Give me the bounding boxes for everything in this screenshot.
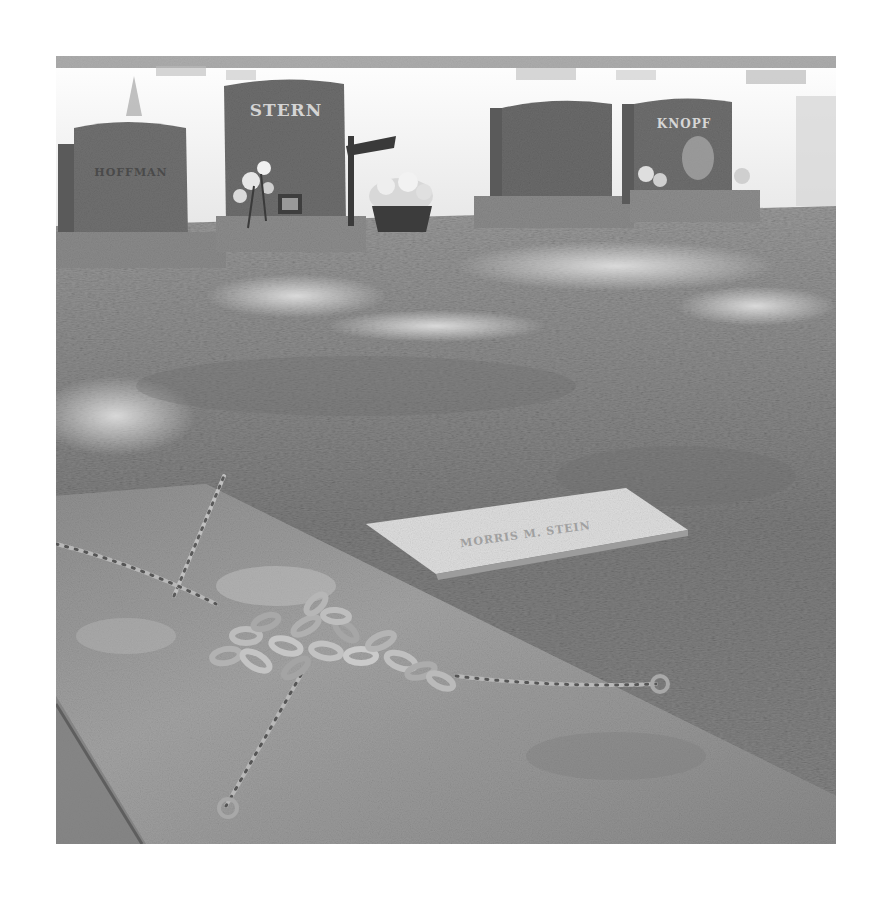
cemetery-photo: HOFFMAN STERN — [56, 56, 836, 844]
headstone-stern-inscription: STERN — [250, 100, 323, 120]
headstone-center-right — [474, 101, 634, 228]
headstone-right-inscription: KNOPF — [657, 117, 711, 131]
headstone-stern: STERN — [216, 79, 366, 252]
headstone-left-inscription: HOFFMAN — [94, 166, 167, 179]
